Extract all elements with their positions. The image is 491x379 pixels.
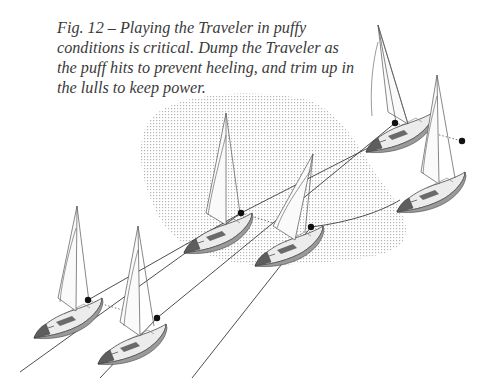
boat-b [98, 226, 167, 365]
marker-c [238, 210, 244, 216]
sailing-diagram [0, 0, 491, 379]
marker-b [154, 315, 160, 321]
marker-a [85, 297, 91, 303]
marker-f [459, 138, 465, 144]
marker-d [308, 224, 314, 230]
puff-area [141, 94, 406, 266]
boat-e [366, 25, 435, 153]
boat-a [34, 206, 103, 339]
marker-e [392, 120, 398, 126]
